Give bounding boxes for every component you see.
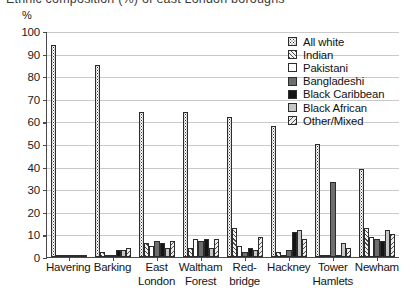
x-axis-category-labels: HaveringBarkingEastLondonWalthamForestRe… (46, 261, 399, 293)
x-axis-category-label: TowerHamlets (311, 261, 355, 293)
bar (139, 112, 144, 257)
x-axis-category-label: Hackney (267, 261, 311, 293)
x-axis-label-line: Barking (90, 261, 134, 275)
x-axis-label-line: East (135, 261, 179, 275)
y-axis-tick-label: 0 (2, 252, 40, 264)
legend-item: Black Caribbean (288, 88, 384, 101)
bar (346, 248, 351, 257)
y-axis-tick-label: 70 (2, 94, 40, 106)
light-grey-swatch-icon (288, 103, 297, 112)
bar-group (91, 32, 135, 257)
legend-item-label: Bangladeshi (303, 75, 364, 87)
checker-swatch-icon (288, 37, 297, 46)
y-axis-tick-label: 80 (2, 71, 40, 83)
y-axis-tick-label: 100 (2, 26, 40, 38)
bar (51, 45, 56, 257)
legend-item: Bangladeshi (288, 75, 384, 88)
y-axis-tick-label: 50 (2, 139, 40, 151)
legend-item-label: Indian (303, 49, 333, 61)
y-axis-tick-label: 90 (2, 49, 40, 61)
x-axis-category-label: WalthamForest (179, 261, 223, 293)
ethnic-composition-bar-chart: Ethnic composition (%) of east London bo… (0, 0, 405, 293)
dark-grey-swatch-icon (288, 77, 297, 86)
y-axis-tick-label: 40 (2, 162, 40, 174)
black-swatch-icon (288, 90, 297, 99)
x-axis-label-line: Hackney (267, 261, 311, 275)
y-axis-tick-label: 60 (2, 116, 40, 128)
bar (330, 182, 335, 257)
bar (170, 241, 175, 257)
y-axis-tick-label: 20 (2, 207, 40, 219)
y-axis-tick-label: 10 (2, 229, 40, 241)
x-axis-label-line: Hamlets (311, 275, 355, 289)
bar (183, 112, 188, 257)
x-axis-category-label: EastLondon (135, 261, 179, 293)
y-axis-unit-label: % (22, 9, 32, 21)
bar (258, 237, 263, 257)
bar (82, 255, 87, 257)
bar (271, 126, 276, 257)
bar-group (47, 32, 91, 257)
bar (214, 239, 219, 257)
chart-legend: All whiteIndianPakistaniBangladeshiBlack… (288, 35, 384, 127)
x-axis-category-label: Red-bridge (223, 261, 267, 293)
bar-group (223, 32, 267, 257)
legend-item: All white (288, 35, 384, 48)
reverse-hatch-swatch-icon (288, 116, 297, 125)
legend-item-label: Other/Mixed (303, 115, 363, 127)
white-swatch-icon (288, 63, 297, 72)
y-axis-tick-mark (43, 258, 47, 259)
bar (302, 239, 307, 257)
x-axis-label-line: Newham (355, 261, 399, 275)
page-title: Ethnic composition (%) of east London bo… (6, 0, 285, 6)
bar (315, 144, 320, 257)
chart-title-clipped: Ethnic composition (%) of east London bo… (0, 0, 405, 9)
bar-group (135, 32, 179, 257)
legend-item-label: Pakistani (303, 62, 348, 74)
x-axis-label-line: Red- (223, 261, 267, 275)
y-axis-tick-label: 30 (2, 184, 40, 196)
x-axis-label-line: Tower (311, 261, 355, 275)
x-axis-category-label: Newham (355, 261, 399, 293)
x-axis-label-line: Forest (179, 275, 223, 289)
legend-item-label: Black Caribbean (303, 88, 384, 100)
legend-item: Black African (288, 101, 384, 114)
bar-group (179, 32, 223, 257)
bar (95, 65, 100, 257)
bar (390, 234, 395, 257)
legend-item-label: All white (303, 36, 344, 48)
legend-item-label: Black African (303, 102, 367, 114)
legend-item: Indian (288, 48, 384, 61)
bar (126, 248, 131, 257)
legend-item: Pakistani (288, 61, 384, 74)
x-axis-label-line: bridge (223, 275, 267, 289)
legend-item: Other/Mixed (288, 114, 384, 127)
x-axis-category-label: Barking (90, 261, 134, 293)
x-axis-label-line: London (135, 275, 179, 289)
x-axis-label-line: Havering (46, 261, 90, 275)
x-axis-category-label: Havering (46, 261, 90, 293)
diagonal-hatch-swatch-icon (288, 50, 297, 59)
x-axis-label-line: Waltham (179, 261, 223, 275)
